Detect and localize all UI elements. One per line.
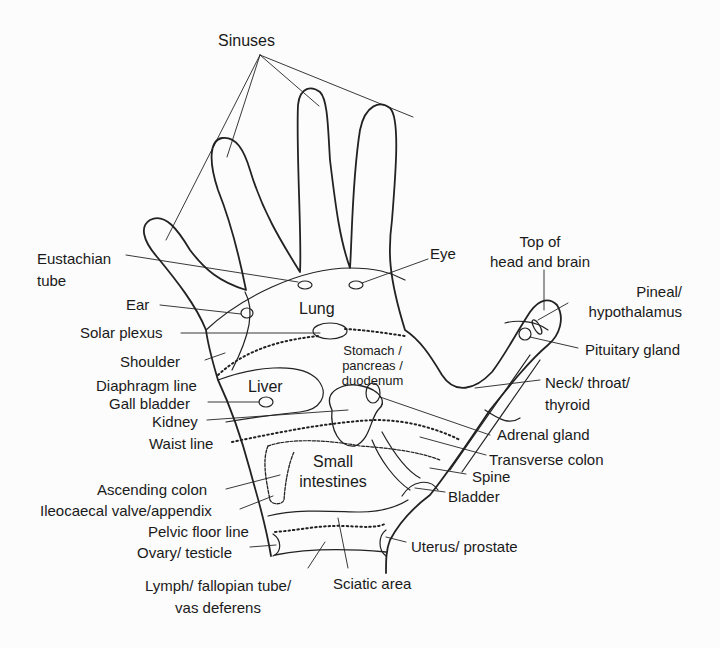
label-shoulder: Shoulder xyxy=(120,353,180,370)
reflexology-diagram: Sinuses Eustachian tube Eye Top of head … xyxy=(0,0,720,648)
label-eustachian-tube: Eustachian tube xyxy=(37,248,111,292)
label-top-of-head: Top of head and brain xyxy=(477,232,603,272)
label-transverse-colon: Transverse colon xyxy=(489,451,604,468)
label-eye: Eye xyxy=(430,245,456,262)
eustachian-point xyxy=(298,281,312,289)
label-pituitary: Pituitary gland xyxy=(585,341,680,358)
finger-base-arc xyxy=(206,268,405,330)
label-lung: Lung xyxy=(299,300,335,317)
label-lymph: Lymph/ fallopian tube/ vas deferens xyxy=(133,575,303,619)
gall-bladder-point xyxy=(259,397,273,407)
solar-plexus-point xyxy=(313,323,347,339)
spine-band xyxy=(372,432,420,490)
label-ovary: Ovary/ testicle xyxy=(137,544,232,561)
label-pineal: Pineal/ hypothalamus xyxy=(576,282,682,322)
label-ear: Ear xyxy=(126,296,149,313)
kidney-blob xyxy=(330,385,383,446)
pineal-shape xyxy=(530,319,543,336)
label-bladder: Bladder xyxy=(448,488,500,505)
label-uterus: Uterus/ prostate xyxy=(411,538,518,555)
label-small-intestines: Small intestines xyxy=(297,452,369,492)
eye-point xyxy=(349,281,363,289)
label-stomach: Stomach / pancreas / duodenum xyxy=(330,343,415,388)
label-solar-plexus: Solar plexus xyxy=(80,324,163,341)
label-pelvic-floor-line: Pelvic floor line xyxy=(148,523,249,540)
label-spine: Spine xyxy=(472,468,510,485)
label-kidney: Kidney xyxy=(152,413,198,430)
pituitary-shape xyxy=(519,328,531,340)
label-liver: Liver xyxy=(248,378,283,395)
label-diaphragm-line: Diaphragm line xyxy=(96,377,197,394)
label-neck: Neck/ throat/ thyroid xyxy=(545,372,630,416)
label-sciatic: Sciatic area xyxy=(333,575,411,592)
label-gall-bladder: Gall bladder xyxy=(109,395,190,412)
pelvic-floor-dotted-line xyxy=(275,524,385,532)
label-sinuses: Sinuses xyxy=(218,32,275,49)
label-ascending-colon: Ascending colon xyxy=(97,481,207,498)
ear-point xyxy=(241,308,253,318)
label-adrenal-gland: Adrenal gland xyxy=(497,426,590,443)
label-ileocaecal: Ileocaecal valve/appendix xyxy=(40,502,212,519)
label-waist-line: Waist line xyxy=(149,435,213,452)
